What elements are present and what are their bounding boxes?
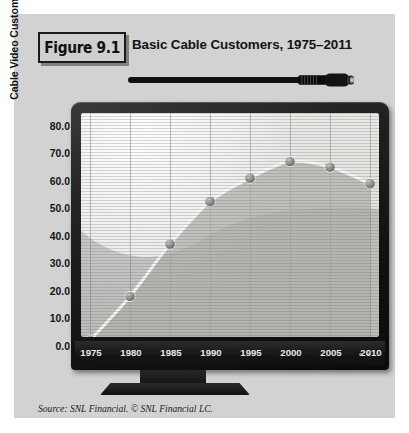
data-point-marker: [165, 239, 175, 249]
data-point-marker: [125, 291, 135, 301]
figure-number-label: Figure 9.1: [44, 39, 120, 57]
x-tick-label: 1975: [71, 347, 111, 358]
x-axis-ticks: 1975 1980 1985 1990 1995 2000 2005 2010: [71, 347, 389, 365]
data-point-marker: [365, 178, 375, 188]
x-tick-label: 1980: [111, 347, 151, 358]
data-point-marker: [245, 173, 255, 183]
tv-stand-base: [100, 383, 250, 395]
x-tick-label: 1985: [151, 347, 191, 358]
crt-television-icon: [71, 102, 389, 370]
data-point-marker: [325, 162, 335, 172]
x-tick-label: 2005: [311, 347, 351, 358]
y-tick-label: 60.0: [24, 176, 70, 187]
tv-stand-neck: [140, 370, 206, 384]
y-tick-label: 40.0: [24, 231, 70, 242]
y-axis-title: Cable Video Customers (in millions): [8, 0, 20, 126]
data-series-line: [81, 113, 379, 337]
x-tick-label: 1990: [191, 347, 231, 358]
coaxial-cable-icon: [128, 72, 356, 88]
figure-page: Figure 9.1 Basic Cable Customers, 1975–2…: [0, 0, 409, 433]
y-tick-label: 80.0: [24, 121, 70, 132]
y-tick-label: 30.0: [24, 258, 70, 269]
x-tick-label: 2000: [271, 347, 311, 358]
y-tick-label: 50.0: [24, 203, 70, 214]
figure-title: Basic Cable Customers, 1975–2011: [132, 37, 392, 52]
source-note: Source: SNL Financial. © SNL Financial L…: [38, 403, 213, 414]
tv-screen: [81, 113, 379, 337]
y-tick-label: 70.0: [24, 148, 70, 159]
x-tick-label: 1995: [231, 347, 271, 358]
y-tick-label: 10.0: [24, 313, 70, 324]
y-tick-label: 20.0: [24, 286, 70, 297]
y-axis-ticks: 80.0 70.0 60.0 50.0 40.0 30.0 20.0 10.0 …: [22, 102, 70, 370]
figure-panel: Figure 9.1 Basic Cable Customers, 1975–2…: [14, 14, 395, 418]
data-point-marker: [285, 156, 295, 166]
x-tick-label: 2010: [351, 347, 391, 358]
y-tick-label: 0.0: [24, 341, 70, 352]
figure-number-badge: Figure 9.1: [38, 32, 126, 63]
data-point-marker: [205, 196, 215, 206]
chart-plot-area: [81, 113, 379, 337]
